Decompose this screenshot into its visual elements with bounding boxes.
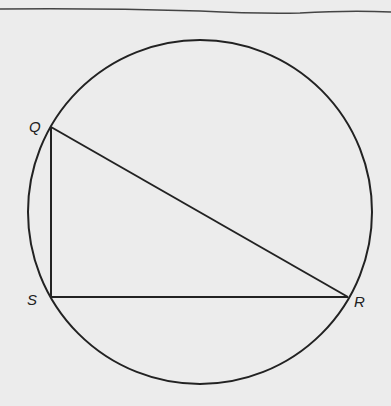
top-border-line: [0, 9, 391, 14]
label-s: S: [27, 291, 37, 308]
label-r: R: [354, 293, 365, 310]
segment-qr: [51, 127, 348, 297]
label-q: Q: [29, 118, 41, 135]
geometry-diagram: Q S R: [0, 0, 391, 406]
